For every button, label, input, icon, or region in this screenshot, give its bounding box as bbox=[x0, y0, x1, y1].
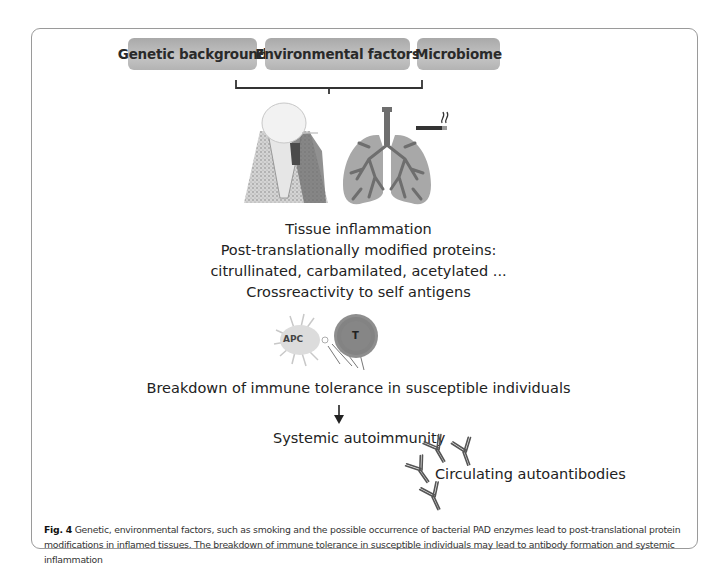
figure-caption: Fig. 4 Genetic, environmental factors, s… bbox=[44, 522, 694, 567]
caption-text: Genetic, environmental factors, such as … bbox=[44, 524, 680, 565]
circulating-autoantibodies-text: Circulating autoantibodies bbox=[435, 466, 626, 482]
caption-label: Fig. 4 bbox=[44, 524, 72, 535]
antibodies-icon bbox=[0, 0, 717, 569]
